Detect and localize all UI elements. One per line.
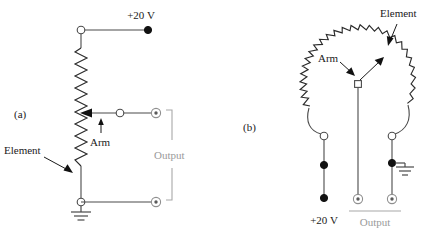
panel-a-supply-label: +20 V <box>127 9 155 21</box>
panel-a-supply-terminal <box>144 26 151 33</box>
panel-b-output-jack-gnd-core <box>390 197 393 200</box>
potentiometer-figure: +20 V (a) Element Arm Output <box>0 0 427 233</box>
panel-b-right-junction-dot <box>388 159 395 166</box>
panel-b-right-lead <box>395 105 409 134</box>
panel-b-element-label: Element <box>380 7 417 19</box>
panel-a-arm-pointer-head <box>98 118 104 125</box>
panel-b-arm-pivot <box>355 81 362 88</box>
panel-a-panel-label: (a) <box>14 108 27 121</box>
panel-a-element-label: Element <box>4 144 41 156</box>
panel-b-arm-contact-line <box>360 62 379 80</box>
panel-b-output-label: Output <box>360 216 391 228</box>
panel-b-panel-label: (b) <box>243 121 256 134</box>
panel-b-left-terminal <box>320 132 328 140</box>
panel-a-group <box>44 26 172 220</box>
panel-b-element-pointer-head <box>387 36 394 46</box>
panel-a-output-jack-top-core <box>154 111 157 114</box>
panel-b-arm-label: Arm <box>318 52 339 64</box>
panel-b-left-junction-dot <box>320 161 327 168</box>
panel-b-supply-terminal <box>320 194 327 201</box>
panel-a-arm-label: Arm <box>90 136 111 148</box>
panel-a-element-pointer-head <box>64 164 74 173</box>
panel-b-right-terminal <box>388 132 396 140</box>
panel-a-arm-node <box>116 109 124 117</box>
panel-b-left-lead <box>308 108 321 134</box>
panel-a-top-terminal <box>77 26 85 34</box>
panel-a-output-label: Output <box>154 149 185 161</box>
panel-a-output-jack-bottom-core <box>154 200 157 203</box>
panel-a-arm-contact-arrowhead <box>80 109 92 118</box>
panel-a-element-pointer-line <box>44 157 68 170</box>
panel-b-output-jack-arm-core <box>356 197 359 200</box>
panel-b-supply-label: +20 V <box>310 214 338 226</box>
panel-a-element-resistor <box>75 48 87 166</box>
